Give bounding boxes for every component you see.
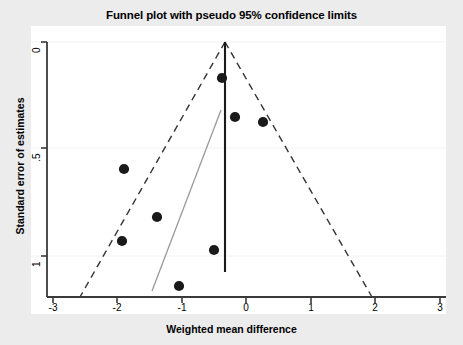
data-point (230, 112, 240, 122)
data-point-group (117, 73, 268, 291)
y-axis-label: Standard error of estimates (14, 56, 26, 276)
data-point (174, 281, 184, 291)
x-tick-label-3: 3 (427, 302, 453, 313)
y-tick-label-05: .5 (31, 154, 42, 174)
x-tick-label--1: -1 (169, 302, 195, 313)
x-axis-label: Weighted mean difference (0, 323, 463, 335)
x-tick-label-2: 2 (362, 302, 388, 313)
x-tick-label-1: 1 (298, 302, 324, 313)
x-tick-label-0: 0 (233, 302, 259, 313)
funnel-plot-chart: Funnel plot with pseudo 95% confidence l… (0, 0, 463, 345)
chart-graphics-layer (0, 0, 463, 345)
ci-limit-right (225, 42, 372, 297)
x-tick-label--3: -3 (40, 302, 66, 313)
y-tick-label-0: 0 (31, 48, 42, 68)
data-point (117, 236, 127, 246)
data-point (217, 73, 227, 83)
x-tick-label--2: -2 (104, 302, 130, 313)
ci-limit-left (80, 42, 225, 297)
regression-line (152, 110, 221, 291)
data-point (152, 212, 162, 222)
y-tick-label-1: 1 (31, 262, 42, 282)
data-point (209, 245, 219, 255)
data-point (119, 164, 129, 174)
data-point (258, 117, 268, 127)
